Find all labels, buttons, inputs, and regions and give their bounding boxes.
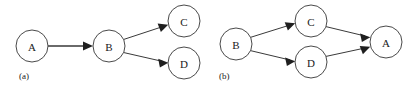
edge-b-to-d-line bbox=[124, 53, 164, 62]
caption-diagram-b: (b) bbox=[219, 71, 230, 81]
edge-c-to-a-diagram-b bbox=[326, 27, 371, 43]
edge-d-to-a-diagram-b-line bbox=[326, 48, 366, 57]
edge-c-to-a-diagram-b-line bbox=[326, 27, 366, 37]
node-a-diagram-a[interactable]: A bbox=[16, 30, 48, 62]
node-a-diagram-b-label: A bbox=[382, 37, 390, 49]
diagram-b: B C D A (b) bbox=[219, 5, 402, 81]
edge-b-to-c bbox=[124, 24, 169, 40]
node-d-diagram-b-label: D bbox=[307, 57, 315, 69]
node-b-diagram-b[interactable]: B bbox=[220, 28, 252, 60]
node-d-diagram-b[interactable]: D bbox=[295, 46, 327, 78]
node-d-diagram-a[interactable]: D bbox=[168, 47, 200, 79]
figure-root: A B C D (a) bbox=[0, 0, 415, 88]
graph-figure-canvas: A B C D (a) bbox=[0, 0, 415, 88]
node-d-diagram-a-label: D bbox=[180, 58, 188, 70]
edge-b-to-c-diagram-b bbox=[250, 22, 295, 37]
node-b-diagram-b-label: B bbox=[232, 39, 239, 51]
node-c-diagram-a[interactable]: C bbox=[168, 5, 200, 37]
edge-b-to-d-diagram-b-line bbox=[250, 51, 290, 61]
node-a-diagram-b[interactable]: A bbox=[370, 26, 402, 58]
node-b-diagram-a[interactable]: B bbox=[93, 30, 125, 62]
node-b-diagram-a-label: B bbox=[105, 41, 112, 53]
node-c-diagram-b-label: C bbox=[307, 16, 314, 28]
edge-d-to-a-diagram-b bbox=[326, 46, 371, 57]
node-a-diagram-a-label: A bbox=[28, 41, 36, 53]
edge-b-to-d bbox=[124, 53, 169, 68]
edge-a-to-b-arrowhead bbox=[83, 42, 93, 51]
edge-a-to-b bbox=[48, 42, 93, 51]
edge-b-to-d-diagram-b bbox=[250, 51, 295, 67]
edge-c-to-a-diagram-b-arrowhead bbox=[360, 33, 370, 42]
node-c-diagram-a-label: C bbox=[180, 16, 187, 28]
node-c-diagram-b[interactable]: C bbox=[295, 5, 327, 37]
edge-b-to-c-line bbox=[124, 27, 164, 40]
edge-b-to-d-diagram-b-arrowhead bbox=[285, 57, 295, 66]
edge-d-to-a-diagram-b-arrowhead bbox=[360, 46, 371, 54]
diagram-a: A B C D (a) bbox=[16, 5, 200, 81]
edge-b-to-d-arrowhead bbox=[158, 59, 168, 68]
edge-b-to-c-diagram-b-line bbox=[250, 25, 290, 38]
caption-diagram-a: (a) bbox=[19, 71, 29, 81]
